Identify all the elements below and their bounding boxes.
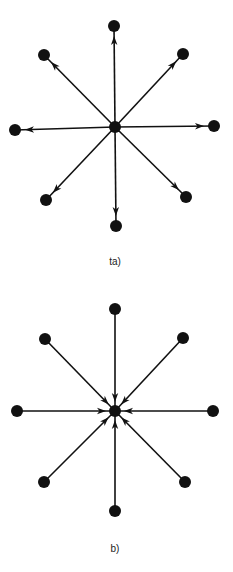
outer-node xyxy=(9,124,21,136)
panel-a-label: ta) xyxy=(95,256,135,267)
outer-node xyxy=(110,220,122,232)
center-node xyxy=(109,405,121,417)
outer-node xyxy=(208,120,220,132)
outer-node xyxy=(38,49,50,61)
outer-node xyxy=(39,333,51,345)
outer-node xyxy=(11,405,23,417)
panel-b-inward-star xyxy=(11,303,219,517)
outer-node xyxy=(177,332,189,344)
diagram-canvas xyxy=(0,0,233,572)
outer-node xyxy=(207,405,219,417)
center-node xyxy=(109,121,121,133)
outer-node xyxy=(109,505,121,517)
outer-node xyxy=(180,191,192,203)
outer-node xyxy=(108,20,120,32)
outer-node xyxy=(179,476,191,488)
panel-a-outward-star xyxy=(9,20,220,232)
outer-node xyxy=(40,194,52,206)
outer-node xyxy=(109,303,121,315)
outer-node xyxy=(38,476,50,488)
outer-node xyxy=(177,48,189,60)
panel-b-label: b) xyxy=(95,543,135,554)
